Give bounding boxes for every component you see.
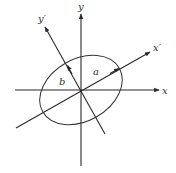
x-axis-label: x — [162, 85, 168, 96]
semi-minor-label: b — [59, 76, 65, 87]
semi-major-label: a — [93, 66, 99, 77]
y-prime-label: y′ — [37, 13, 47, 24]
x-prime-label: x′ — [153, 42, 162, 53]
y-axis-label: y — [77, 1, 84, 12]
semi-minor-arrow — [68, 66, 73, 75]
y-prime-axis — [45, 27, 105, 134]
ellipse-diagram: x y x′ y′ a b — [0, 0, 176, 173]
